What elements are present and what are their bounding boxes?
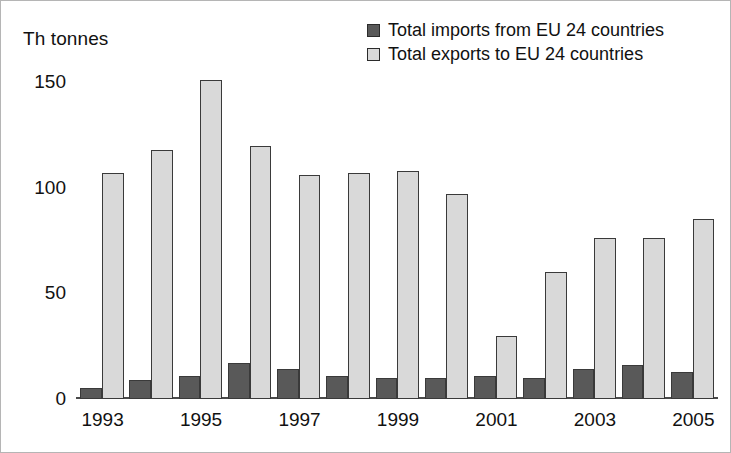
bar-fill [299,175,321,399]
x-axis-tick-2005: 2005 [672,409,714,431]
bar-exports-2005 [693,219,715,399]
bar-exports-1993 [102,173,124,399]
bar-imports-1995 [179,376,201,399]
bar-imports-1999 [376,378,398,399]
bar-fill [594,238,616,399]
x-axis-tick-1997: 1997 [278,409,320,431]
bar-fill [425,378,447,399]
bar-imports-2004 [622,365,644,399]
bar-exports-2003 [594,238,616,399]
bar-fill [474,376,496,399]
bar-fill [200,80,222,399]
x-axis-tick-1995: 1995 [180,409,222,431]
bar-fill [523,378,545,399]
x-axis-tick-2003: 2003 [574,409,616,431]
bar-fill [348,173,370,399]
chart-figure: Th tonnes Total imports from EU 24 count… [0,0,731,453]
bar-exports-2002 [545,272,567,399]
bar-imports-1994 [129,380,151,399]
plot-inner: 0501001501993199519971999200120032005 [78,61,718,399]
bar-fill [446,194,468,399]
bar-exports-1995 [200,80,222,399]
legend-swatch-imports [367,24,380,37]
bar-fill [496,336,518,399]
bar-fill [376,378,398,399]
x-axis-tick-2001: 2001 [475,409,517,431]
bar-fill [102,173,124,399]
y-axis-tick-150: 150 [34,71,66,93]
bar-exports-2004 [643,238,665,399]
bar-exports-1999 [397,171,419,399]
bar-exports-2000 [446,194,468,399]
bar-imports-1997 [277,369,299,399]
bar-fill [573,369,595,399]
bar-fill [326,376,348,399]
legend-item-imports[interactable]: Total imports from EU 24 countries [367,21,664,39]
x-axis-tick-1999: 1999 [377,409,419,431]
bar-exports-2001 [496,336,518,399]
bar-fill [179,376,201,399]
chart-legend: Total imports from EU 24 countriesTotal … [367,21,664,63]
y-axis-tick-0: 0 [55,388,66,410]
x-axis-tick-1993: 1993 [81,409,123,431]
bar-imports-2003 [573,369,595,399]
bar-fill [250,146,272,400]
y-axis-tick-100: 100 [34,177,66,199]
bar-imports-2000 [425,378,447,399]
bar-imports-2001 [474,376,496,399]
bar-fill [397,171,419,399]
y-axis-unit-label: Th tonnes [23,28,108,50]
bar-imports-1993 [80,388,102,399]
y-axis-tick-50: 50 [45,282,66,304]
bar-fill [80,388,102,399]
bar-imports-2002 [523,378,545,399]
bar-fill [277,369,299,399]
bar-fill [228,363,250,399]
bar-fill [129,380,151,399]
legend-label: Total imports from EU 24 countries [388,21,664,39]
bar-fill [622,365,644,399]
bar-fill [693,219,715,399]
bar-fill [643,238,665,399]
bar-exports-1998 [348,173,370,399]
plot-area: 0501001501993199519971999200120032005 [78,61,718,399]
bar-fill [545,272,567,399]
bar-exports-1997 [299,175,321,399]
bar-fill [671,372,693,399]
bar-imports-1996 [228,363,250,399]
bar-exports-1994 [151,150,173,399]
bar-imports-2005 [671,372,693,399]
bar-fill [151,150,173,399]
legend-swatch-exports [367,48,380,61]
bar-imports-1998 [326,376,348,399]
bar-exports-1996 [250,146,272,400]
